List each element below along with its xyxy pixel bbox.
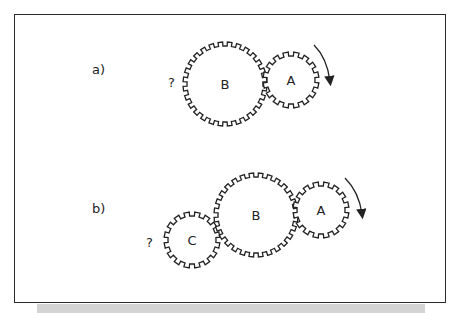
panel-a-label: a): [92, 62, 105, 77]
gear-b-label: B: [252, 208, 261, 223]
clockwise-arrow-icon: [345, 178, 362, 214]
gear-a-label: A: [317, 203, 326, 218]
panel-a: a) ? BA: [92, 42, 330, 126]
panel-b-gears: CBA: [164, 173, 349, 268]
panel-a-gears: BA: [183, 42, 319, 126]
gear-a-label: A: [287, 73, 296, 88]
panel-b: b) ? CBA: [92, 173, 362, 268]
panel-b-question-mark: ?: [146, 235, 153, 250]
gear-b-label: B: [221, 77, 230, 92]
gear-c-label: C: [187, 233, 196, 248]
panel-b-label: b): [92, 201, 105, 216]
panel-a-question-mark: ?: [168, 75, 175, 90]
gear-diagram: a) ? BA b) ? CBA: [0, 0, 458, 313]
